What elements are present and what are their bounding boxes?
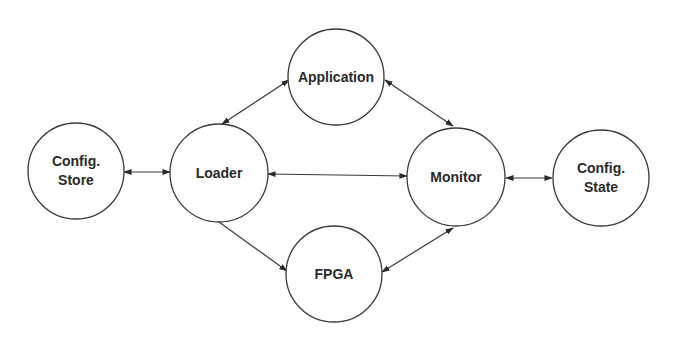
node-label: Config. bbox=[52, 153, 100, 169]
node-label: Monitor bbox=[430, 169, 482, 185]
edge-loader-to-fpga bbox=[219, 222, 287, 271]
node-label: Application bbox=[298, 69, 374, 85]
node-circle bbox=[28, 123, 124, 219]
node-config-store: Config.Store bbox=[28, 123, 124, 219]
node-config-state: Config.State bbox=[553, 130, 649, 226]
edge-application-to-monitor bbox=[385, 80, 453, 126]
edge-loader-to-monitor bbox=[268, 174, 407, 176]
node-label: Config. bbox=[577, 160, 625, 176]
node-label: FPGA bbox=[315, 266, 354, 282]
node-label: Store bbox=[58, 172, 94, 188]
node-label: Loader bbox=[196, 165, 243, 181]
edge-loader-to-application bbox=[222, 80, 289, 124]
node-fpga: FPGA bbox=[286, 226, 382, 322]
node-application: Application bbox=[288, 29, 384, 125]
node-circle bbox=[553, 130, 649, 226]
node-monitor: Monitor bbox=[407, 128, 505, 226]
architecture-diagram: Config.StoreLoaderApplicationFPGAMonitor… bbox=[0, 0, 674, 340]
node-loader: Loader bbox=[170, 124, 268, 222]
edge-monitor-to-fpga bbox=[382, 228, 453, 272]
node-label: State bbox=[584, 179, 618, 195]
